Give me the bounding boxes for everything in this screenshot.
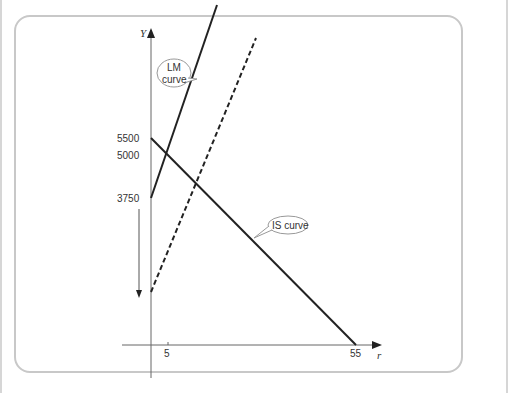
x-axis-label: r <box>377 349 382 361</box>
is-curve <box>151 138 356 345</box>
y-axis-arrow-icon <box>147 28 155 38</box>
x-tick-label-5: 5 <box>164 348 170 359</box>
shift-down-arrow-icon <box>136 290 142 298</box>
lm-callout-line2: curve <box>162 74 187 85</box>
islm-diagram: Y r 5 55 5500 5000 3750 LM curve IS curv… <box>0 0 508 393</box>
y-axis-label: Y <box>140 27 148 39</box>
is-callout: IS curve <box>254 216 309 238</box>
y-tick-label-5000: 5000 <box>117 150 140 161</box>
is-callout-label: IS curve <box>272 220 309 231</box>
x-axis-arrow-icon <box>372 341 382 349</box>
y-tick-label-3750: 3750 <box>117 193 140 204</box>
x-tick-label-55: 55 <box>350 348 362 359</box>
lm-curve <box>151 5 217 198</box>
lm-callout-line1: LM <box>167 62 181 73</box>
y-tick-label-5500: 5500 <box>117 133 140 144</box>
